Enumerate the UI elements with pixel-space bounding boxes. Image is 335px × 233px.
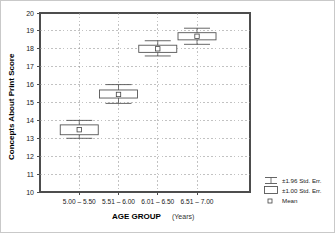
y-tick-label: 11 [27,171,34,178]
x-axis-ticks: 5.00 – 5.505.51 – 6.006.01 – 6.506.51 – … [63,192,214,205]
square-marker-icon [268,199,272,203]
y-tick-label: 13 [26,135,34,142]
y-tick-label: 15 [26,99,34,106]
y-tick-label: 16 [26,81,34,88]
y-tick-label: 18 [26,45,34,52]
y-axis-ticks: 1011121314151617181920 [26,10,40,196]
box-icon [265,187,278,194]
whisker-icon [265,178,277,184]
mean-marker [77,128,81,132]
legend-entry-box: ±1.00 Std. Err. [265,187,322,195]
y-tick-label: 19 [26,27,34,34]
legend-label-mean: Mean [282,197,298,204]
y-tick-label: 14 [26,117,34,124]
mean-marker [116,92,120,96]
x-tick-label: 5.51 – 6.00 [102,198,135,205]
x-tick-label: 5.00 – 5.50 [63,198,96,205]
x-axis-title-unit: (Years) [172,213,194,221]
legend-label-box: ±1.00 Std. Err. [282,187,322,194]
legend-label-whisker: ±1.96 Std. Err. [282,177,322,184]
box-plot-svg: 1011121314151617181920 5.00 – 5.505.51 –… [0,0,335,233]
y-tick-label: 12 [26,153,34,160]
y-tick-label: 20 [26,10,34,17]
mean-marker [156,47,160,51]
x-axis-title: AGE GROUP [112,212,162,221]
legend-entry-mean: Mean [268,197,298,204]
x-tick-label: 6.01 – 6.50 [141,198,174,205]
chart-figure: 1011121314151617181920 5.00 – 5.505.51 –… [0,0,335,233]
y-tick-label: 17 [26,63,34,70]
legend: ±1.96 Std. Err. ±1.00 Std. Err. Mean [265,177,322,204]
y-tick-label: 10 [26,189,34,196]
mean-marker [195,34,199,38]
x-tick-label: 6.51 – 7.00 [181,198,214,205]
legend-entry-whisker: ±1.96 Std. Err. [265,177,322,184]
y-axis-title: Concepts About Print Score [7,53,16,160]
